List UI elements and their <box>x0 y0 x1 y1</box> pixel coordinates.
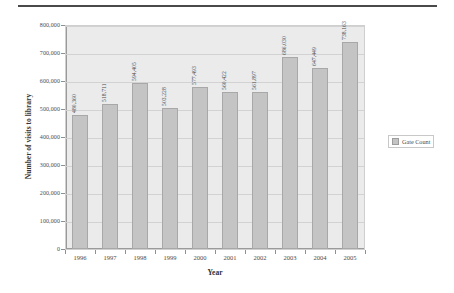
x-tick-label: 2005 <box>330 254 370 262</box>
y-tick-label: 800,000 <box>14 22 60 28</box>
bar-value-label: 480,360 <box>71 94 77 113</box>
legend-swatch-icon <box>392 138 399 145</box>
legend-label: Gate Count <box>402 138 430 145</box>
y-tick-label: 400,000 <box>14 134 60 140</box>
x-tick-mark <box>245 250 246 254</box>
top-divider-rule <box>18 5 437 7</box>
y-tick-label: 200,000 <box>14 190 60 196</box>
bar-value-label: 577,493 <box>191 66 197 85</box>
bar-value-label: 594,405 <box>131 62 137 81</box>
bar[interactable] <box>102 104 118 249</box>
y-tick-label: 100,000 <box>14 218 60 224</box>
bar[interactable] <box>252 92 268 249</box>
bar-series-gate-count: 480,360518,711594,405503,228577,493560,4… <box>65 25 365 250</box>
bar-slot: 480,360 <box>65 25 95 249</box>
bar[interactable] <box>222 92 238 249</box>
chart-legend: Gate Count <box>388 135 434 148</box>
bar-slot: 577,493 <box>185 25 215 249</box>
x-tick-mark <box>65 250 66 254</box>
bar-value-label: 560,422 <box>221 71 227 90</box>
bar-slot: 560,422 <box>215 25 245 249</box>
bar-value-label: 738,163 <box>341 21 347 40</box>
bar-value-label: 503,228 <box>161 87 167 106</box>
x-tick-mark <box>305 250 306 254</box>
x-tick-mark <box>335 250 336 254</box>
bar[interactable] <box>282 57 298 249</box>
bar-value-label: 561,897 <box>251 71 257 90</box>
bar-value-label: 518,711 <box>101 83 107 102</box>
bar[interactable] <box>72 115 88 250</box>
x-tick-mark <box>95 250 96 254</box>
y-tick-label: 300,000 <box>14 162 60 168</box>
x-tick-mark <box>155 250 156 254</box>
bar-value-label: 647,449 <box>311 47 317 66</box>
bar-slot: 647,449 <box>305 25 335 249</box>
bar-slot: 738,163 <box>335 25 365 249</box>
bar[interactable] <box>132 83 148 249</box>
bar-slot: 594,405 <box>125 25 155 249</box>
x-tick-mark <box>275 250 276 254</box>
x-tick-mark <box>215 250 216 254</box>
x-axis-title: Year <box>65 268 365 277</box>
bar-slot: 686,030 <box>275 25 305 249</box>
bar[interactable] <box>342 42 358 249</box>
bar-slot: 503,228 <box>155 25 185 249</box>
x-tick-mark <box>365 250 366 254</box>
y-tick-label: 600,000 <box>14 78 60 84</box>
bar-slot: 518,711 <box>95 25 125 249</box>
bar-chart: 0100,000200,000300,000400,000500,000600,… <box>0 10 454 285</box>
bar[interactable] <box>312 68 328 249</box>
bar-value-label: 686,030 <box>281 36 287 55</box>
y-tick-label: 0 <box>14 246 60 252</box>
x-tick-mark <box>125 250 126 254</box>
bar-slot: 561,897 <box>245 25 275 249</box>
bar[interactable] <box>192 87 208 249</box>
y-tick-label: 700,000 <box>14 50 60 56</box>
x-tick-mark <box>185 250 186 254</box>
y-tick-label: 500,000 <box>14 106 60 112</box>
bar[interactable] <box>162 108 178 249</box>
y-axis-title: Number of visits to library <box>24 47 33 227</box>
